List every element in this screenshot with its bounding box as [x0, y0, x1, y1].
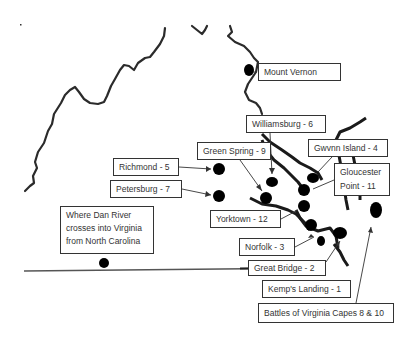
label-green-spring: Green Spring - 9: [197, 142, 271, 160]
label-williamsburg: Williamsburg - 6: [246, 115, 326, 133]
label-gwynn-island: Gwvnn Island - 4: [308, 139, 388, 157]
great-bridge-marker: [317, 236, 325, 246]
label-yorktown: Yorktown - 12: [210, 210, 281, 228]
label-norfolk: Norfolk - 3: [239, 238, 295, 256]
label-petersburg: Petersburg - 7: [110, 180, 182, 198]
label-kemps-landing: Kemp's Landing - 1: [262, 280, 351, 298]
stray-dot: [20, 24, 22, 26]
virginia-capes-marker: [370, 202, 382, 218]
northern-border-mark: [192, 26, 207, 34]
norfolk-marker: [305, 219, 317, 231]
williamsburg-marker: [266, 177, 278, 187]
green-spring-marker: [260, 192, 272, 204]
label-great-bridge: Great Bridge - 2: [248, 260, 326, 276]
label-dan-river: Where Dan River crosses into Virginia fr…: [60, 206, 154, 254]
gloucester-point-marker: [298, 184, 310, 196]
mount-vernon-marker: [244, 64, 254, 76]
label-gloucester-point: Gloucester Point - 11: [334, 163, 390, 196]
label-virginia-capes: Battles of Virginia Capes 8 & 10: [258, 303, 394, 323]
petersburg-marker: [213, 190, 225, 202]
label-mount-vernon: Mount Vernon: [258, 63, 341, 81]
label-richmond: Richmond - 5: [113, 158, 179, 176]
eastern-shore-line: [336, 118, 366, 140]
dan-river-marker: [99, 258, 109, 268]
gwynn-island-marker: [307, 173, 319, 183]
kemps-landing-marker: [333, 227, 347, 239]
yorktown-marker: [298, 200, 310, 212]
richmond-marker: [213, 163, 225, 175]
